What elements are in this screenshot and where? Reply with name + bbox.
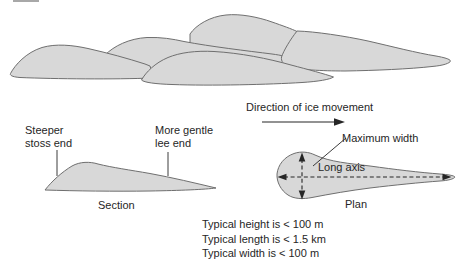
typical-height: Typical height is < 100 m — [202, 217, 326, 232]
section-shape — [45, 162, 216, 191]
typical-width: Typical width is < 100 m — [202, 246, 326, 261]
ice-direction-label: Direction of ice movement — [246, 101, 373, 114]
ice-direction-arrowhead — [334, 118, 345, 126]
section-caption: Section — [98, 199, 135, 212]
typical-length: Typical length is < 1.5 km — [202, 232, 326, 247]
long-axis-label: Long axis — [318, 161, 365, 174]
lee-end-label: More gentle lee end — [155, 124, 213, 150]
page-edge-artifact — [13, 0, 39, 2]
max-width-label: Maximum width — [342, 132, 418, 145]
stoss-end-label: Steeper stoss end — [25, 124, 72, 150]
drumlin-right — [281, 31, 450, 71]
typical-dimensions: Typical height is < 100 m Typical length… — [202, 217, 326, 261]
plan-caption: Plan — [345, 198, 367, 211]
drumlin-diagram: Steeper stoss end More gentle lee end Se… — [0, 0, 466, 272]
